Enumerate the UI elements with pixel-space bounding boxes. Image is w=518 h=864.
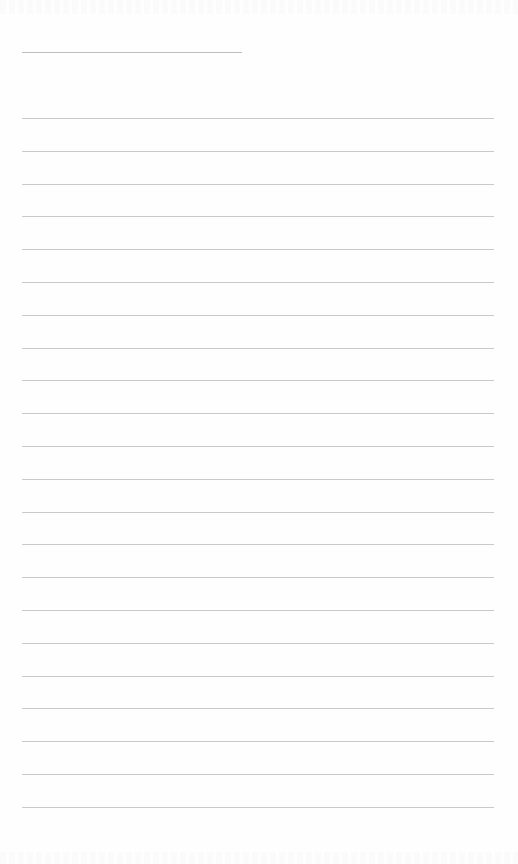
- ruled-line: [22, 151, 494, 152]
- ruled-line: [22, 676, 494, 677]
- ruled-line: [22, 315, 494, 316]
- ruled-line: [22, 774, 494, 775]
- ruled-line: [22, 741, 494, 742]
- ruled-line: [22, 643, 494, 644]
- ruled-line: [22, 118, 494, 119]
- header-rule-line: [22, 52, 242, 53]
- ruled-line: [22, 216, 494, 217]
- show-through-text-top: [0, 0, 518, 14]
- ruled-line: [22, 380, 494, 381]
- ruled-line: [22, 184, 494, 185]
- ruled-line: [22, 249, 494, 250]
- show-through-text-bottom: [0, 852, 518, 864]
- ruled-line: [22, 413, 494, 414]
- ruled-line: [22, 577, 494, 578]
- ruled-line: [22, 512, 494, 513]
- ruled-line: [22, 446, 494, 447]
- ruled-line: [22, 479, 494, 480]
- ruled-page: [0, 0, 518, 864]
- ruled-line: [22, 708, 494, 709]
- ruled-line: [22, 282, 494, 283]
- ruled-line: [22, 348, 494, 349]
- ruled-line: [22, 544, 494, 545]
- ruled-line: [22, 807, 494, 808]
- ruled-line: [22, 610, 494, 611]
